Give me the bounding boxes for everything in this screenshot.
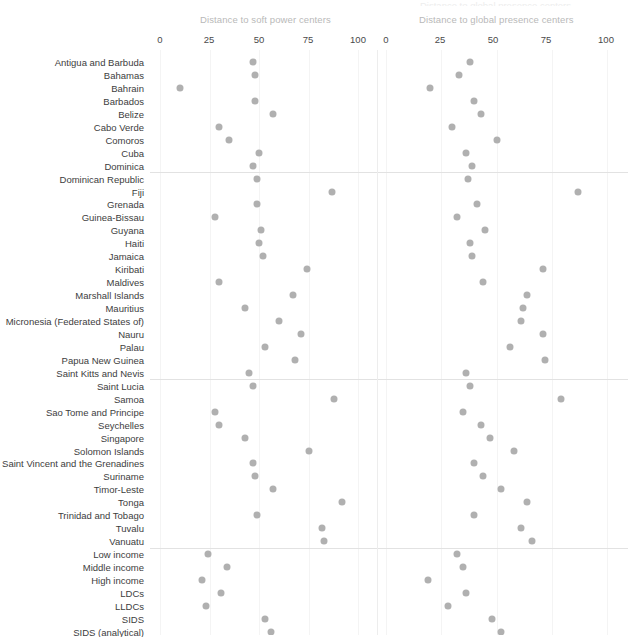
data-point[interactable] xyxy=(486,434,493,441)
data-point[interactable] xyxy=(469,162,476,169)
group-separator xyxy=(378,379,628,380)
data-point[interactable] xyxy=(517,525,524,532)
data-point[interactable] xyxy=(453,214,460,221)
data-point[interactable] xyxy=(250,162,257,169)
data-point[interactable] xyxy=(204,551,211,558)
data-point[interactable] xyxy=(449,123,456,130)
data-point[interactable] xyxy=(460,408,467,415)
data-point[interactable] xyxy=(464,175,471,182)
data-point[interactable] xyxy=(289,292,296,299)
data-point[interactable] xyxy=(267,628,274,635)
data-point[interactable] xyxy=(297,330,304,337)
data-point[interactable] xyxy=(466,382,473,389)
data-point[interactable] xyxy=(329,188,336,195)
data-point[interactable] xyxy=(305,447,312,454)
category-label: Marshall Islands xyxy=(75,290,144,301)
data-point[interactable] xyxy=(539,330,546,337)
data-point[interactable] xyxy=(269,110,276,117)
data-point[interactable] xyxy=(252,71,259,78)
data-point[interactable] xyxy=(212,408,219,415)
data-point[interactable] xyxy=(466,59,473,66)
data-point[interactable] xyxy=(242,305,249,312)
data-point[interactable] xyxy=(489,615,496,622)
data-point[interactable] xyxy=(254,175,261,182)
axis-tick-right-50: 50 xyxy=(488,34,499,45)
data-point[interactable] xyxy=(478,110,485,117)
data-point[interactable] xyxy=(216,123,223,130)
data-point[interactable] xyxy=(256,149,263,156)
data-point[interactable] xyxy=(497,628,504,635)
data-point[interactable] xyxy=(462,149,469,156)
data-point[interactable] xyxy=(202,602,209,609)
data-point[interactable] xyxy=(303,266,310,273)
data-point[interactable] xyxy=(275,318,282,325)
category-label: Trinidad and Tobago xyxy=(58,510,144,521)
data-point[interactable] xyxy=(524,292,531,299)
category-label: Barbados xyxy=(103,95,144,106)
data-point[interactable] xyxy=(497,486,504,493)
data-point[interactable] xyxy=(321,538,328,545)
data-point[interactable] xyxy=(460,564,467,571)
data-point[interactable] xyxy=(224,564,231,571)
data-point[interactable] xyxy=(254,201,261,208)
data-point[interactable] xyxy=(250,59,257,66)
category-label: Comoros xyxy=(105,134,144,145)
data-point[interactable] xyxy=(471,97,478,104)
data-point[interactable] xyxy=(216,421,223,428)
data-point[interactable] xyxy=(469,253,476,260)
data-point[interactable] xyxy=(480,279,487,286)
data-point[interactable] xyxy=(291,356,298,363)
data-point[interactable] xyxy=(539,266,546,273)
data-point[interactable] xyxy=(462,369,469,376)
data-point[interactable] xyxy=(226,136,233,143)
data-point[interactable] xyxy=(319,525,326,532)
data-point[interactable] xyxy=(542,356,549,363)
category-label: Maldives xyxy=(107,277,145,288)
data-point[interactable] xyxy=(473,201,480,208)
axis-tick-right-0: 0 xyxy=(383,34,388,45)
data-point[interactable] xyxy=(524,499,531,506)
data-point[interactable] xyxy=(261,343,268,350)
data-point[interactable] xyxy=(212,214,219,221)
data-point[interactable] xyxy=(256,240,263,247)
data-point[interactable] xyxy=(466,240,473,247)
data-point[interactable] xyxy=(482,227,489,234)
data-point[interactable] xyxy=(517,318,524,325)
data-point[interactable] xyxy=(261,615,268,622)
data-point[interactable] xyxy=(455,71,462,78)
data-point[interactable] xyxy=(478,421,485,428)
data-point[interactable] xyxy=(218,589,225,596)
data-point[interactable] xyxy=(198,577,205,584)
data-point[interactable] xyxy=(520,305,527,312)
data-point[interactable] xyxy=(176,84,183,91)
data-point[interactable] xyxy=(257,227,264,234)
data-point[interactable] xyxy=(493,136,500,143)
data-point[interactable] xyxy=(250,460,257,467)
data-point[interactable] xyxy=(331,395,338,402)
data-point[interactable] xyxy=(252,97,259,104)
data-point[interactable] xyxy=(575,188,582,195)
data-point[interactable] xyxy=(216,279,223,286)
data-point[interactable] xyxy=(259,253,266,260)
data-point[interactable] xyxy=(246,369,253,376)
data-point[interactable] xyxy=(511,447,518,454)
category-label: Suriname xyxy=(103,471,144,482)
data-point[interactable] xyxy=(424,577,431,584)
data-point[interactable] xyxy=(269,486,276,493)
data-point[interactable] xyxy=(506,343,513,350)
data-point[interactable] xyxy=(339,499,346,506)
data-point[interactable] xyxy=(471,460,478,467)
data-point[interactable] xyxy=(242,434,249,441)
category-label: Seychelles xyxy=(98,419,144,430)
data-point[interactable] xyxy=(557,395,564,402)
data-point[interactable] xyxy=(528,538,535,545)
data-point[interactable] xyxy=(480,473,487,480)
data-point[interactable] xyxy=(444,602,451,609)
data-point[interactable] xyxy=(453,551,460,558)
data-point[interactable] xyxy=(254,512,261,519)
data-point[interactable] xyxy=(462,589,469,596)
data-point[interactable] xyxy=(471,512,478,519)
data-point[interactable] xyxy=(250,382,257,389)
data-point[interactable] xyxy=(427,84,434,91)
data-point[interactable] xyxy=(252,473,259,480)
